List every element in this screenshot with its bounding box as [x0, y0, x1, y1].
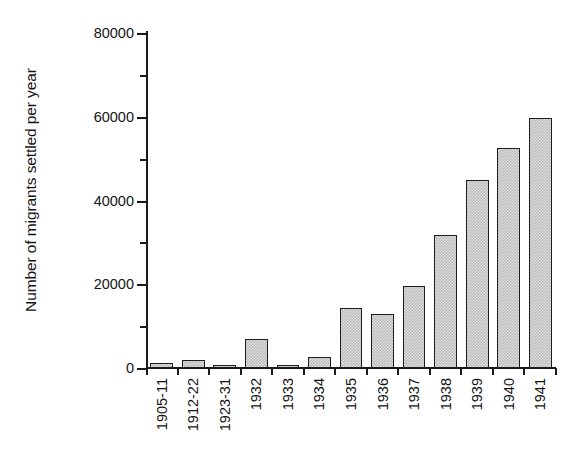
bar [497, 148, 520, 368]
bar [434, 235, 457, 368]
x-axis-tick-label: 1936 [375, 378, 391, 410]
x-axis-tick-label: 1937 [406, 378, 422, 410]
x-axis-tick-label: 1923-31 [217, 378, 233, 431]
y-axis-tick-minor [140, 242, 146, 244]
y-axis-tick-label: 60000 [94, 109, 134, 125]
y-axis-tick-major [137, 284, 146, 286]
x-axis-tick-label: 1912-22 [185, 378, 201, 431]
y-axis-tick-label: 0 [126, 360, 134, 376]
x-axis-tick [492, 368, 494, 375]
y-axis-tick-label: 80000 [94, 25, 134, 41]
y-axis-tick-major [137, 117, 146, 119]
y-axis-tick-minor [140, 159, 146, 161]
x-axis-tick-label: 1934 [311, 378, 327, 410]
x-axis-tick [397, 368, 399, 375]
bar [403, 286, 426, 368]
x-axis-tick [177, 368, 179, 375]
x-axis-tick [523, 368, 525, 375]
bar [308, 357, 331, 368]
x-axis-tick [366, 368, 368, 375]
y-axis-tick-major [137, 33, 146, 35]
x-axis-tick [460, 368, 462, 375]
x-axis-tick [303, 368, 305, 375]
x-axis-tick [555, 368, 557, 375]
y-axis-tick-minor [140, 75, 146, 77]
bar [213, 365, 236, 368]
x-axis-tick-label: 1905-11 [154, 378, 170, 430]
y-axis-tick-major [137, 368, 146, 370]
bar [340, 308, 363, 368]
x-axis-tick-label: 1940 [501, 378, 517, 410]
x-axis-tick [429, 368, 431, 375]
x-axis-tick-label: 1941 [532, 378, 548, 410]
y-axis-tick-label: 40000 [94, 193, 134, 209]
bar [371, 314, 394, 368]
y-axis-title: Number of migrants settled per year [22, 68, 40, 312]
y-axis-title-container: Number of migrants settled per year [0, 0, 62, 380]
bar [466, 180, 489, 368]
x-axis-tick-label: 1933 [280, 378, 296, 410]
bar [277, 365, 300, 368]
x-axis-tick [271, 368, 273, 375]
bar [245, 339, 268, 368]
x-axis-tick-label: 1932 [248, 378, 264, 410]
plot-area: 020000400006000080000 [146, 33, 556, 368]
bar [529, 118, 552, 368]
x-axis-tick [334, 368, 336, 375]
x-axis-tick-label: 1935 [343, 378, 359, 410]
y-axis-tick-label: 20000 [94, 276, 134, 292]
bar [150, 363, 173, 368]
x-axis-tick-label: 1939 [469, 378, 485, 410]
x-axis-tick [146, 368, 148, 375]
bar [182, 360, 205, 368]
y-axis-tick-major [137, 201, 146, 203]
bar-chart-figure: Number of migrants settled per year 0200… [0, 0, 584, 462]
y-axis-tick-minor [140, 326, 146, 328]
x-axis-tick-label: 1938 [438, 378, 454, 410]
x-axis-tick [240, 368, 242, 375]
x-axis-tick [208, 368, 210, 375]
